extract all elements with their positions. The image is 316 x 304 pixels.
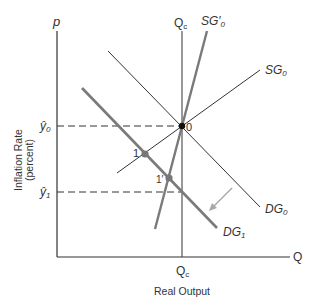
y0-tick-label: ŷ0 [39,119,51,134]
sg0-label: SG0 [265,63,287,78]
x-axis-title: Real Output [154,285,210,297]
sg0-prime-label: SG′0 [201,14,226,29]
point-1-label: 1 [133,147,139,159]
x-axis-label: Q [293,250,302,264]
qc-top-label: Qc [174,16,187,31]
dg0-label: DG0 [265,202,288,217]
point-0-label: 0 [186,121,192,133]
dg0-curve [108,51,260,207]
y-axis-label: p [52,14,60,29]
dg1-curve [82,88,217,228]
shift-arrow-icon [209,188,232,211]
point-1-prime-label: 1′ [156,174,164,185]
svg-text:(percent): (percent) [23,139,35,181]
y-axis-title: Inflation Rate (percent) [12,129,35,191]
diagram: 0 1 1′ p Q Qc Qc ŷ0 ŷ1 SG′0 SG0 DG0 DG1 … [0,0,316,304]
point-1 [141,150,148,157]
dg1-label: DG1 [223,225,245,240]
y1-tick-label: ŷ1 [39,185,50,200]
sg0-prime-curve [155,31,207,229]
qc-bottom-label: Qc [176,264,189,279]
point-0 [179,123,185,129]
point-1-prime [165,174,172,181]
